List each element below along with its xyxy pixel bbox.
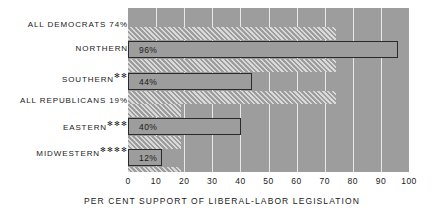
bar-value-midwestern: 12% <box>139 153 157 163</box>
horizontal-bar-chart: 96% 44% 40% 12% ALL DEMOCRATS 74% NORTHE… <box>0 0 444 221</box>
x-axis-title: PER CENT SUPPORT OF LIBERAL-LABOR LEGISL… <box>0 196 444 206</box>
category-label-eastern: EASTERN✻✻✻ <box>63 120 128 132</box>
category-label-midwestern-text: MIDWESTERN <box>36 149 100 158</box>
xtick-80: 80 <box>348 176 358 186</box>
gridline-80 <box>353 8 354 172</box>
xtick-10: 10 <box>151 176 161 186</box>
bar-all-republicans-band-3 <box>128 167 181 172</box>
bar-southern[interactable]: 44% <box>128 73 252 90</box>
category-label-southern-text: SOUTHERN <box>62 75 114 84</box>
bar-northern[interactable]: 96% <box>128 41 398 58</box>
bar-value-southern: 44% <box>139 77 157 87</box>
footnote-marker-eastern: ✻✻✻ <box>107 120 128 127</box>
bar-all-republicans[interactable] <box>128 104 181 117</box>
category-label-all-democrats: ALL DEMOCRATS 74% <box>28 20 128 29</box>
xtick-30: 30 <box>207 176 217 186</box>
xtick-20: 20 <box>179 176 189 186</box>
xtick-60: 60 <box>291 176 301 186</box>
category-label-eastern-text: EASTERN <box>63 123 107 132</box>
gridline-90 <box>381 8 382 172</box>
xtick-50: 50 <box>263 176 273 186</box>
xtick-100: 100 <box>401 176 417 186</box>
bar-midwestern[interactable]: 12% <box>128 149 162 166</box>
category-label-all-republicans: ALL REPUBLICANS 19% <box>20 96 128 105</box>
bar-value-eastern: 40% <box>139 122 157 132</box>
category-label-southern: SOUTHERN✻✻ <box>62 72 128 84</box>
bar-all-republicans-band-2 <box>128 136 181 149</box>
bar-all-democrats-band-2 <box>128 59 336 72</box>
bar-all-democrats[interactable] <box>128 27 336 40</box>
bar-all-democrats-band-3 <box>128 91 336 104</box>
footnote-marker-southern: ✻✻ <box>114 72 128 79</box>
xtick-0: 0 <box>125 176 130 186</box>
xtick-70: 70 <box>319 176 329 186</box>
category-label-midwestern: MIDWESTERN✻✻✻✻ <box>36 146 128 158</box>
xtick-40: 40 <box>235 176 245 186</box>
xtick-90: 90 <box>376 176 386 186</box>
plot-area: 96% 44% 40% 12% <box>128 8 409 172</box>
bar-eastern[interactable]: 40% <box>128 118 241 135</box>
bar-value-northern: 96% <box>139 45 157 55</box>
footnote-marker-midwestern: ✻✻✻✻ <box>100 146 128 153</box>
category-label-northern: NORTHERN <box>76 44 128 53</box>
